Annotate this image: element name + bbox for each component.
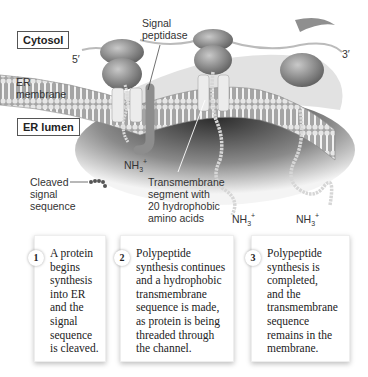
step-3-number: 3: [245, 250, 261, 266]
cytosol-label: Cytosol: [17, 31, 69, 49]
nh3-label-3: NH3+: [296, 210, 319, 230]
signal-peptidase-label: Signal peptidase: [142, 17, 188, 41]
step-2-text: Polypeptidesynthesis continues and a hyd…: [136, 247, 225, 356]
transmembrane-segment-label: Transmembrane segment with 20 hydrophobi…: [148, 176, 225, 224]
five-prime-label: 5′: [72, 53, 80, 65]
step-1-box: 1 A proteinbegins synthesisinto ER and t…: [34, 235, 106, 362]
cleaved-signal-sequence-label: Cleaved signal sequence: [30, 176, 76, 212]
step-3-box: 3 Polypeptidesynthesis is completed,and …: [251, 235, 350, 362]
step-2-box: 2 Polypeptidesynthesis continues and a h…: [120, 235, 234, 362]
nh3-label-2: NH3+: [232, 210, 255, 230]
nh3-label-1: NH3+: [124, 156, 147, 176]
step-1-number: 1: [28, 250, 44, 266]
three-prime-label: 3′: [342, 48, 350, 60]
step-1-text: A proteinbegins synthesisinto ER and the…: [50, 247, 99, 356]
ribosome-1: [100, 39, 144, 90]
er-membrane-label: ER membrane: [16, 76, 66, 100]
er-lumen-label: ER lumen: [17, 118, 80, 136]
step-3-text: Polypeptidesynthesis is completed,and th…: [267, 247, 338, 356]
ribosome-2: [193, 29, 233, 75]
step-2-number: 2: [114, 250, 130, 266]
